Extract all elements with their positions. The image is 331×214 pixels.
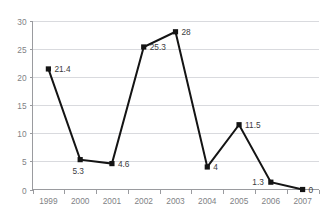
data-point-marker [141, 44, 146, 49]
x-tick-label: 2004 [198, 196, 217, 206]
x-tick-label: 2001 [103, 196, 122, 206]
data-point-label: 4.6 [118, 159, 130, 169]
data-point-label: 25.3 [150, 42, 167, 52]
data-point-marker [205, 164, 210, 169]
data-point-marker [78, 157, 83, 162]
data-point-marker [268, 180, 273, 185]
x-tick-label: 2005 [230, 196, 249, 206]
x-tick-label: 2002 [134, 196, 153, 206]
y-tick-label: 30 [17, 17, 27, 27]
series-line [48, 32, 302, 190]
series-data-labels: 21.45.34.625.328411.51.30 [54, 27, 313, 195]
data-point-label: 11.5 [245, 120, 261, 130]
data-point-label: 28 [182, 27, 192, 37]
y-tick-label: 10 [17, 129, 27, 139]
x-axis-tick-labels: 199920002001200220032004200520062007 [39, 196, 312, 206]
x-tick-label: 2007 [293, 196, 312, 206]
data-point-marker [109, 161, 114, 166]
plot-area: 051015202530 199920002001200220032004200… [0, 0, 331, 214]
y-axis-tick-labels: 051015202530 [17, 17, 27, 196]
data-point-label: 1.3 [252, 177, 264, 187]
data-point-label: 4 [213, 162, 218, 172]
y-tick-label: 5 [22, 157, 27, 167]
y-tick-label: 25 [17, 45, 27, 55]
line-chart: 051015202530 199920002001200220032004200… [0, 0, 331, 214]
y-tick-label: 20 [17, 73, 27, 83]
x-tick-label: 1999 [39, 196, 58, 206]
x-tick-marks-group [34, 190, 320, 194]
series-markers-group [46, 29, 305, 192]
data-point-label: 5.3 [72, 166, 84, 176]
data-point-label: 21.4 [54, 64, 71, 74]
gridlines-group [33, 22, 319, 162]
x-tick-label: 2003 [166, 196, 185, 206]
data-point-marker [173, 29, 178, 34]
y-tick-label: 15 [17, 101, 27, 111]
data-point-marker [300, 187, 305, 192]
x-tick-label: 2000 [71, 196, 90, 206]
x-tick-label: 2006 [262, 196, 281, 206]
y-tick-label: 0 [22, 186, 27, 196]
data-point-marker [236, 122, 241, 127]
data-point-label: 0 [309, 185, 314, 195]
data-point-marker [46, 66, 51, 71]
